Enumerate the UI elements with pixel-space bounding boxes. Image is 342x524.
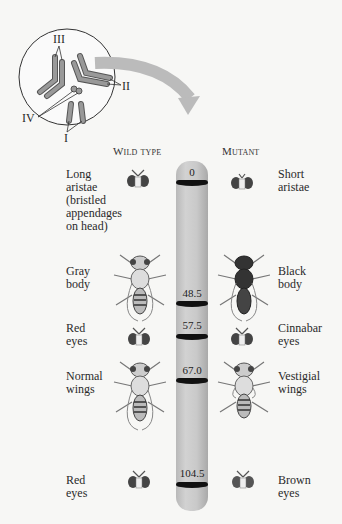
fly-body-icon [110,245,170,325]
locus-position-67-0: 67.0 [176,364,208,376]
fly-head-icon [230,170,254,190]
chromosome-inset [0,0,342,160]
header-wild-type: Wild type [113,145,161,157]
mutant-trait-cinnabar-eyes: Cinnabareyes [278,322,322,348]
locus-position-0: 0 [176,166,208,178]
mutant-trait-short-aristae: Shortaristae [278,168,309,194]
wild-trait-red-eyes: Redeyes [66,322,87,348]
locus-position-48-5: 48.5 [176,287,208,299]
fly-head-icon [127,469,151,489]
wild-trait-gray-body: Graybody [66,265,90,291]
mutant-trait-black-body: Blackbody [278,265,306,291]
label-chromosome-I: I [64,132,68,145]
fly-head-icon [231,469,255,489]
label-chromosome-II: II [122,80,130,93]
wild-trait-red-eyes-2: Redeyes [66,474,87,500]
locus-band-57-5 [176,334,208,340]
fly-head-icon [126,168,150,188]
fly-body-icon [214,352,274,432]
locus-band-48-5 [176,301,208,307]
locus-position-104-5: 104.5 [176,467,208,479]
locus-band-0 [176,180,208,186]
locus-position-57-5: 57.5 [176,319,208,331]
mutant-trait-brown-eyes: Browneyes [278,474,311,500]
fly-head-icon [127,326,151,346]
fly-body-icon [214,245,274,325]
locus-band-67-0 [176,378,208,384]
wild-trait-normal-wings: Normalwings [66,370,103,396]
fly-head-icon [230,326,254,346]
fly-body-icon [110,352,170,432]
header-mutant: Mutant [222,145,259,157]
wild-trait-long-aristae: Longaristae(bristledappendageson head) [66,168,122,233]
locus-band-104-5 [176,482,208,488]
label-chromosome-III: III [53,33,65,46]
mutant-trait-vestigial-wings: Vestigialwings [278,370,320,396]
label-chromosome-IV: IV [22,112,35,125]
